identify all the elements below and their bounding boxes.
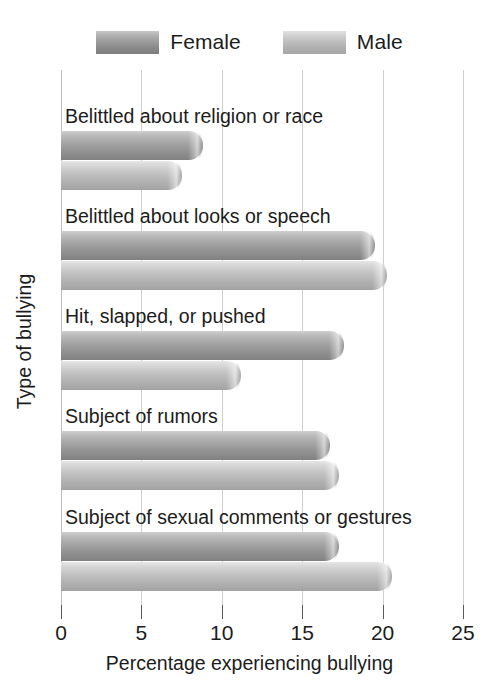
male-legend-swatch [283, 31, 346, 54]
bar-chart: Female Male Belittled about religion or … [0, 0, 499, 700]
tick-0 [61, 605, 62, 619]
bar-end-cap [315, 431, 330, 460]
bar-end-cap [167, 161, 182, 190]
bar-male [61, 361, 241, 390]
tick-10 [222, 605, 223, 619]
bar-end-cap [324, 461, 339, 490]
bar-female [61, 532, 339, 561]
tick-label-15: 15 [291, 621, 314, 645]
tick-label-10: 10 [210, 621, 233, 645]
bar-female [61, 431, 330, 460]
category-label: Belittled about religion or race [65, 103, 323, 129]
x-axis-ticks [61, 605, 463, 619]
bar-male [61, 562, 392, 591]
legend-label-male: Male [357, 30, 403, 54]
y-axis-title: Type of bullying [13, 232, 36, 452]
bars-layer: Belittled about religion or raceBelittle… [61, 70, 463, 605]
bar-male [61, 261, 387, 290]
bar-group: Belittled about religion or race [61, 99, 463, 194]
category-label: Belittled about looks or speech [65, 203, 331, 229]
legend-entry-female: Female [96, 30, 241, 54]
tick-label-20: 20 [371, 621, 394, 645]
bar-end-cap [329, 331, 344, 360]
bar-male [61, 461, 339, 490]
female-legend-swatch [96, 31, 159, 54]
category-label: Subject of sexual comments or gestures [65, 504, 412, 530]
bar-female [61, 331, 344, 360]
chart-legend: Female Male [0, 24, 499, 60]
bar-group: Hit, slapped, or pushed [61, 299, 463, 394]
category-label: Hit, slapped, or pushed [65, 303, 266, 329]
bar-end-cap [188, 131, 203, 160]
tick-25 [463, 605, 464, 619]
tick-15 [302, 605, 303, 619]
tick-label-5: 5 [136, 621, 148, 645]
legend-label-female: Female [170, 30, 241, 54]
gridline-25 [463, 70, 464, 605]
bar-female [61, 131, 203, 160]
category-label: Subject of rumors [65, 403, 218, 429]
tick-20 [383, 605, 384, 619]
bar-female [61, 231, 375, 260]
legend-entry-male: Male [283, 30, 403, 54]
bar-end-cap [360, 231, 375, 260]
plot-area: Belittled about religion or raceBelittle… [61, 70, 463, 605]
bar-end-cap [226, 361, 241, 390]
bar-male [61, 161, 182, 190]
bar-group: Subject of sexual comments or gestures [61, 500, 463, 595]
x-axis-title: Percentage experiencing bullying [0, 652, 499, 675]
bar-end-cap [372, 261, 387, 290]
tick-label-25: 25 [451, 621, 474, 645]
tick-5 [141, 605, 142, 619]
bar-end-cap [324, 532, 339, 561]
tick-label-0: 0 [55, 621, 67, 645]
bar-group: Belittled about looks or speech [61, 199, 463, 294]
bar-end-cap [377, 562, 392, 591]
bar-group: Subject of rumors [61, 399, 463, 494]
x-axis-tick-labels: 0510152025 [61, 621, 463, 649]
